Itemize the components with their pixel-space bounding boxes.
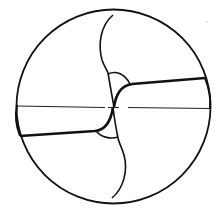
upper-land-rim (205, 78, 210, 108)
lower-cutting-lip (112, 107, 126, 198)
drill-diagram-svg (0, 0, 222, 212)
chisel-edge-lower (96, 131, 118, 138)
chisel-edge-upper (108, 72, 130, 84)
upper-land (114, 78, 205, 107)
speck-mark (206, 21, 207, 22)
lower-land (20, 107, 113, 136)
upper-cutting-lip (100, 15, 114, 107)
drill-end-view-diagram: Twist drill end view (cross-section) (0, 0, 222, 212)
